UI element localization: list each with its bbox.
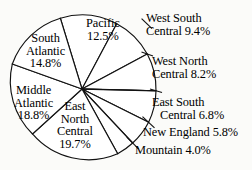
slice-label-east-north-central-name1: East [57,100,93,113]
slice-label-east-south-central-line2: Central 6.8% [152,109,224,122]
slice-label-mountain: Mountain 4.0% [135,144,211,157]
slice-label-east-south-central: East South Central 6.8% [152,96,224,122]
slice-label-east-north-central: East North Central 19.7% [57,100,93,151]
slice-label-middle-atlantic: Middle Atlantic 18.8% [14,84,53,122]
slice-label-west-north-central-line2: Central 8.2% [152,68,216,81]
slice-label-mountain-line1: Mountain 4.0% [135,144,211,157]
slice-label-south-atlantic-name1: South [26,32,65,45]
pie-chart: Pacific 12.5% South Atlantic 14.8% Middl… [0,0,252,170]
slice-label-pacific-value: 12.5% [86,30,120,43]
slice-label-south-atlantic-value: 14.8% [26,57,65,70]
slice-label-west-south-central: West South Central 9.4% [146,12,210,38]
slice-label-new-england-line1: New England 5.8% [143,126,238,139]
slice-label-east-north-central-value: 19.7% [57,138,93,151]
slice-label-west-south-central-line2: Central 9.4% [146,25,210,38]
slice-label-new-england: New England 5.8% [143,126,238,139]
slice-label-middle-atlantic-value: 18.8% [14,109,53,122]
slice-label-south-atlantic: South Atlantic 14.8% [26,32,65,70]
slice-label-pacific: Pacific 12.5% [86,17,120,42]
slice-label-west-north-central: West North Central 8.2% [152,55,216,81]
slice-label-middle-atlantic-name1: Middle [14,84,53,97]
slice-label-pacific-name: Pacific [86,17,120,30]
